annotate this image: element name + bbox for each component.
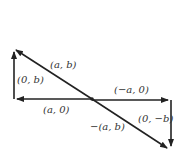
label-neg-a-0: (−a, 0) xyxy=(114,84,149,95)
origin-point xyxy=(90,97,94,101)
label-0-neg-b: (0, −b) xyxy=(138,113,173,124)
label-a-b: (a, b) xyxy=(50,59,77,70)
label-a-0: (a, 0) xyxy=(43,104,70,115)
label-neg-a-b-sum: −(a, b) xyxy=(90,121,125,132)
vector-diagram: (a, b) (0, b) (a, 0) (−a, 0) (0, −b) −(a… xyxy=(0,0,184,164)
label-0-b: (0, b) xyxy=(17,74,44,85)
